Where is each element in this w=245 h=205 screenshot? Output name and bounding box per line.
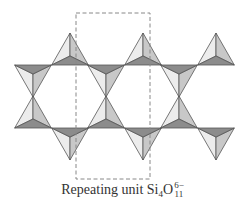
caption: Repeating unit Si4O6−11 xyxy=(0,181,245,203)
oxygen-symbol: O xyxy=(163,182,173,197)
oxygen-subscript: 11 xyxy=(174,190,184,199)
tetrahedra-layer xyxy=(15,33,235,160)
repeating-unit-box xyxy=(76,13,150,179)
oxygen-sub-sup: 6−11 xyxy=(174,181,184,199)
caption-prefix: Repeating unit Si xyxy=(61,182,158,197)
silicate-chain-diagram xyxy=(0,0,245,205)
